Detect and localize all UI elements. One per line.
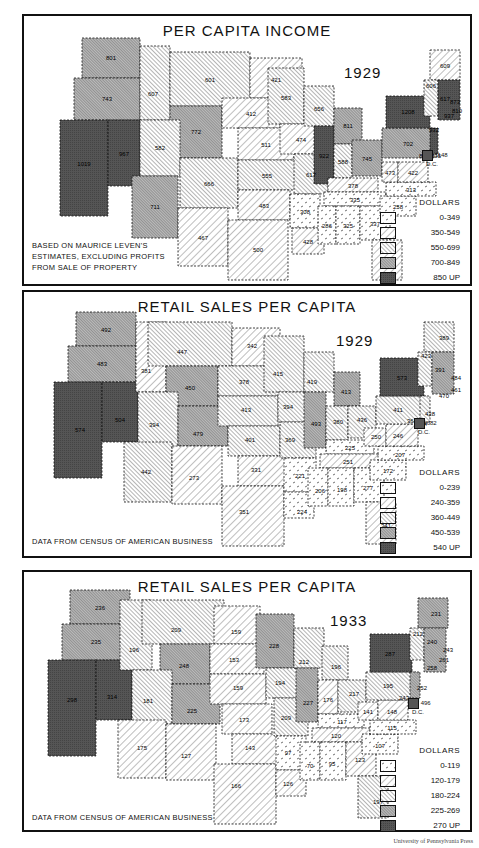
legend-item: 360-449 [380,510,460,525]
svg-text:225: 225 [345,445,356,451]
svg-text:381: 381 [141,368,152,374]
svg-text:194: 194 [275,680,286,686]
svg-text:745: 745 [362,156,373,162]
svg-text:922: 922 [319,153,330,159]
legend-item: 550-699 [380,240,460,255]
svg-text:492: 492 [101,327,112,333]
svg-text:117: 117 [337,719,347,725]
svg-text:500: 500 [253,247,264,253]
legend-item: 0-239 [380,480,460,495]
svg-text:207: 207 [395,452,406,458]
dc-marker: 496 D.C. [408,698,431,715]
dc-label: D.C. [418,429,430,435]
svg-text:195: 195 [383,683,394,689]
svg-text:159: 159 [231,629,242,635]
legend-item: 0-349 [380,210,460,225]
svg-text:173: 173 [239,717,250,723]
legend-item: 450-539 [380,525,460,540]
legend-label: 0-239 [440,483,460,492]
svg-text:801: 801 [106,55,117,61]
svg-text:159: 159 [233,685,244,691]
svg-text:248: 248 [179,663,190,669]
svg-text:504: 504 [115,417,126,423]
svg-text:273: 273 [189,475,200,481]
svg-text:380: 380 [333,419,344,425]
svg-text:70: 70 [307,763,314,769]
note-line: BASED ON MAURICE LEVEN'S [32,240,165,251]
legend-label: 120-179 [431,776,460,785]
svg-text:702: 702 [403,141,414,147]
svg-text:342: 342 [247,343,258,349]
svg-text:601: 601 [205,77,216,83]
svg-text:277: 277 [363,485,374,491]
publisher-credit: University of Pennsylvania Press [394,838,474,844]
legend-label: 270 UP [433,821,460,830]
svg-text:115: 115 [387,725,397,731]
legend-item: 225-269 [380,803,460,818]
svg-text:772: 772 [191,129,202,135]
svg-text:588: 588 [338,159,349,165]
svg-text:251: 251 [343,459,354,465]
legend-label: 450-539 [431,528,460,537]
note-line: FROM SALE OF PROPERTY [32,262,165,273]
map-panel-retail-sales-1933: RETAIL SALES PER CAPITA 1933 [22,570,472,832]
source-note: DATA FROM CENSUS OF AMERICAN BUSINESS [32,536,213,547]
svg-text:246: 246 [393,433,404,439]
svg-text:314: 314 [107,694,118,700]
svg-text:438: 438 [425,411,436,417]
legend-label: 850 UP [433,273,460,282]
svg-text:209: 209 [171,627,182,633]
legend-item: 0-119 [380,758,460,773]
dc-swatch [408,698,419,709]
svg-text:166: 166 [231,783,242,789]
svg-text:217: 217 [349,691,360,697]
map-panel-per-capita-income-1929: PER CAPITA INCOME 1929 [22,14,472,286]
dc-label: D.C. [426,161,438,167]
svg-text:656: 656 [314,106,325,112]
svg-text:711: 711 [150,204,160,210]
legend: DOLLARS 0-239 240-359 360-449 450-539 54… [380,468,460,555]
note-line: DATA FROM CENSUS OF AMERICAN BUSINESS [32,812,213,823]
source-note: BASED ON MAURICE LEVEN'S ESTIMATES, EXCL… [32,240,165,273]
svg-text:225: 225 [187,708,198,714]
svg-text:258: 258 [427,665,438,671]
source-note: DATA FROM CENSUS OF AMERICAN BUSINESS [32,812,213,823]
svg-text:175: 175 [137,745,148,751]
svg-text:606: 606 [426,83,437,89]
svg-text:391: 391 [435,367,446,373]
svg-text:573: 573 [397,375,408,381]
svg-text:176: 176 [323,697,334,703]
svg-text:483: 483 [259,203,270,209]
svg-text:236: 236 [95,605,106,611]
svg-text:617: 617 [306,172,317,178]
svg-text:221: 221 [295,473,306,479]
svg-text:153: 153 [229,657,240,663]
svg-text:224: 224 [297,509,308,515]
svg-text:413: 413 [241,407,252,413]
svg-text:967: 967 [119,151,130,157]
dc-swatch [422,150,433,161]
svg-text:143: 143 [245,745,256,751]
svg-text:97: 97 [285,750,292,756]
svg-text:483: 483 [97,361,108,367]
svg-text:932: 932 [429,127,440,133]
svg-text:196: 196 [331,664,342,670]
svg-text:286: 286 [322,223,333,229]
dc-label: D.C. [412,709,424,715]
svg-text:1019: 1019 [77,161,91,167]
svg-text:415: 415 [273,371,284,377]
svg-text:313: 313 [406,187,417,193]
svg-text:555: 555 [262,173,273,179]
legend-label: 0-349 [440,213,460,222]
svg-text:467: 467 [198,235,209,241]
svg-text:413: 413 [341,389,352,395]
svg-text:331: 331 [251,467,262,473]
svg-text:810: 810 [452,108,463,114]
svg-text:423: 423 [421,353,432,359]
svg-text:743: 743 [102,96,113,102]
svg-text:209: 209 [281,715,292,721]
legend-label: 225-269 [431,806,460,815]
svg-text:401: 401 [245,437,256,443]
svg-text:479: 479 [193,431,204,437]
dc-value: 1148 [435,152,448,158]
